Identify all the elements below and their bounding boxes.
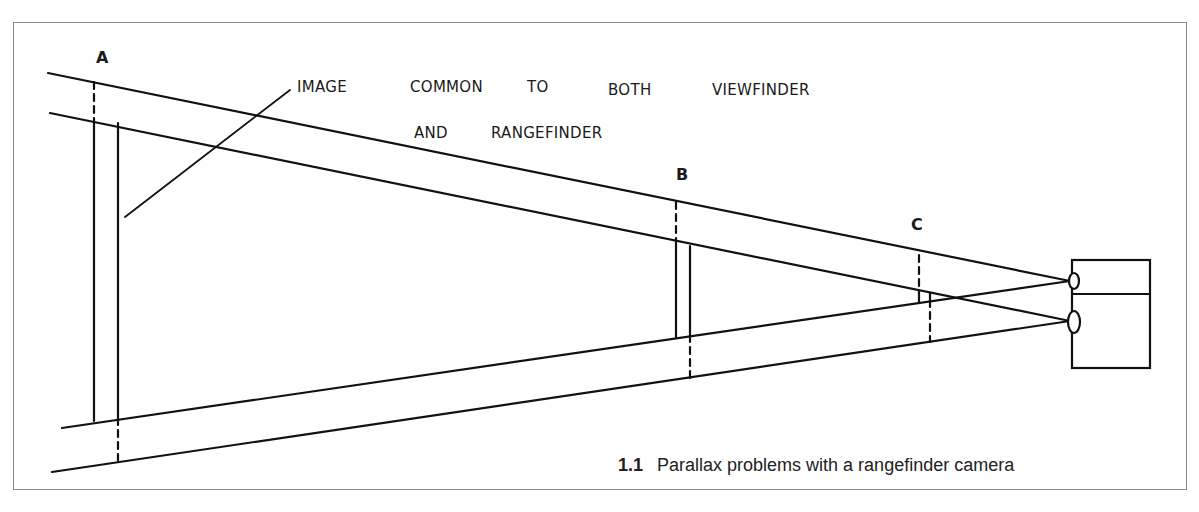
figure-caption: 1.1Parallax problems with a rangefinder … xyxy=(618,455,1014,476)
viewfinder-window xyxy=(1069,273,1079,289)
camera-body xyxy=(1072,260,1150,368)
annotation-word: VIEWFINDER xyxy=(712,81,810,99)
label-plane-b: B xyxy=(676,165,689,184)
annotation-word: RANGEFINDER xyxy=(491,124,602,142)
figure-caption-text: Parallax problems with a rangefinder cam… xyxy=(657,455,1014,475)
label-plane-c: C xyxy=(911,215,923,234)
annotation-word: AND xyxy=(414,124,448,142)
label-plane-a: A xyxy=(96,48,109,67)
annotation-word: BOTH xyxy=(608,81,651,99)
rangefinder-window xyxy=(1068,311,1080,333)
parallax-diagram xyxy=(0,0,1199,512)
figure-number: 1.1 xyxy=(618,455,643,475)
annotation-word: IMAGE xyxy=(297,78,347,96)
viewfinder-ray-top xyxy=(48,73,1070,281)
annotation-word: TO xyxy=(527,78,549,96)
annotation-leader xyxy=(125,90,290,217)
rangefinder-ray-bottom xyxy=(52,321,1070,472)
annotation-word: COMMON xyxy=(410,78,483,96)
